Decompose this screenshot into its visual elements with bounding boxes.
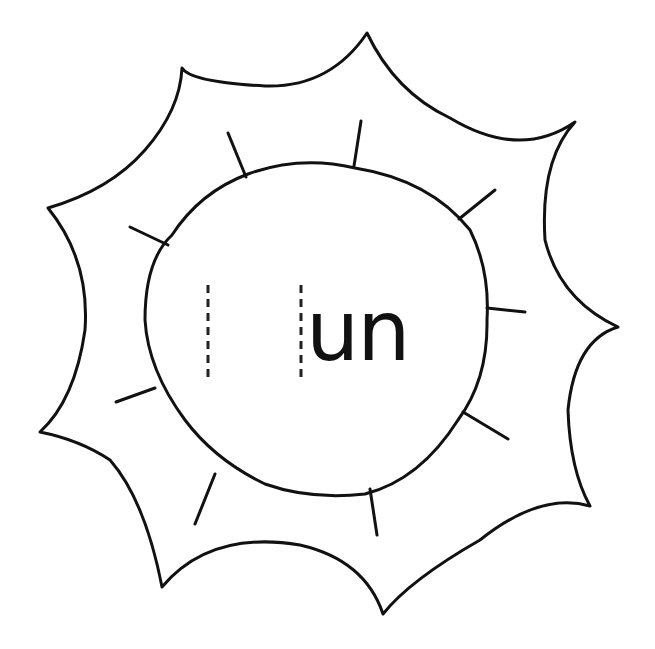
sun-worksheet: un: [0, 0, 655, 649]
word-family-text: un: [306, 282, 408, 380]
